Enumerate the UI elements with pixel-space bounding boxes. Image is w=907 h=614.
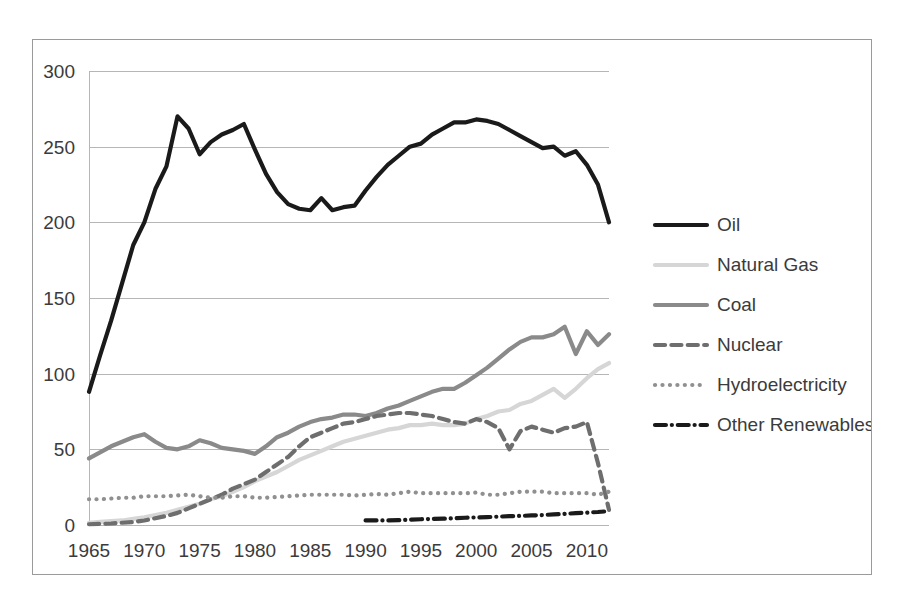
- x-tick-label: 1985: [289, 540, 331, 561]
- series-line-nuclear: [89, 413, 609, 524]
- y-tick-label: 250: [43, 137, 75, 158]
- data-series-group: [89, 116, 609, 524]
- chart-legend: OilNatural GasCoalNuclearHydroelectricit…: [655, 214, 871, 435]
- legend-label-nuclear: Nuclear: [717, 334, 783, 355]
- y-tick-label: 100: [43, 364, 75, 385]
- legend-label-hydroelectricity: Hydroelectricity: [717, 374, 847, 395]
- chart-figure: 050100150200250300 196519701975198019851…: [32, 39, 872, 575]
- y-axis-tick-labels: 050100150200250300: [43, 61, 75, 536]
- x-tick-label: 1995: [400, 540, 442, 561]
- series-line-oil: [89, 116, 609, 391]
- y-tick-label: 0: [64, 515, 75, 536]
- x-tick-label: 2000: [455, 540, 497, 561]
- gridlines: [89, 71, 609, 526]
- series-line-hydroelectricity: [89, 492, 609, 500]
- y-tick-label: 150: [43, 288, 75, 309]
- y-tick-label: 300: [43, 61, 75, 82]
- chart-canvas: 050100150200250300 196519701975198019851…: [33, 40, 871, 574]
- x-tick-label: 1980: [234, 540, 276, 561]
- y-tick-label: 200: [43, 212, 75, 233]
- x-tick-label: 1970: [123, 540, 165, 561]
- series-line-natural-gas: [89, 363, 609, 523]
- x-tick-label: 2005: [510, 540, 552, 561]
- legend-label-coal: Coal: [717, 294, 756, 315]
- x-tick-label: 1975: [178, 540, 220, 561]
- legend-label-oil: Oil: [717, 214, 740, 235]
- x-axis-tick-labels: 1965197019751980198519901995200020052010: [68, 540, 608, 561]
- y-tick-label: 50: [54, 439, 75, 460]
- x-tick-label: 2010: [566, 540, 608, 561]
- x-tick-label: 1990: [344, 540, 386, 561]
- series-line-other-renewables: [366, 511, 609, 520]
- x-tick-label: 1965: [68, 540, 110, 561]
- legend-label-other-renewables: Other Renewables: [717, 414, 871, 435]
- legend-label-natural-gas: Natural Gas: [717, 254, 818, 275]
